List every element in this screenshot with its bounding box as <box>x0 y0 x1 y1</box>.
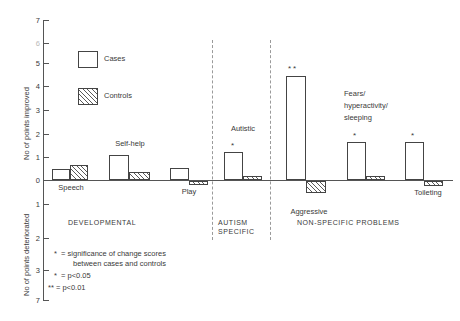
legend-label-cases: Cases <box>104 54 125 63</box>
group-label-nonspecific: NON-SPECIFIC PROBLEMS <box>297 219 400 226</box>
bar-label-play: Play <box>165 187 213 196</box>
group-separator-autism-nonspecific <box>270 40 271 240</box>
footnote-line-3: * = p<0.05 <box>54 271 91 280</box>
significance-marker-toileting: * <box>411 131 416 140</box>
bar-speech-controls <box>70 165 88 180</box>
y-tick-label-7: 7 <box>28 16 40 25</box>
y-tick-label-5: 5 <box>28 59 40 68</box>
y-tick-2 <box>44 134 49 135</box>
group-label-autism-line2: SPECIFIC <box>218 228 255 235</box>
y-tick-neg-1 <box>44 204 49 205</box>
bar-fears-controls <box>366 176 385 180</box>
y-tick-label-6: 6 <box>28 39 40 48</box>
legend-swatch-cases <box>78 51 98 68</box>
significance-marker-fears: * <box>353 131 358 140</box>
bar-toileting-controls <box>424 181 443 186</box>
y-tick-5 <box>44 63 49 64</box>
y-tick-label-neg-1: 1 <box>28 200 40 209</box>
bar-label-selfhelp: Self-help <box>100 139 160 148</box>
footnote-line-4: ** = p<0.01 <box>48 283 86 292</box>
bar-play-cases <box>170 168 189 180</box>
bar-label-fears-line2: hyperactivity/ <box>344 101 414 110</box>
bar-label-toileting: Toileting <box>400 188 456 197</box>
group-label-developmental: DEVELOPMENTAL <box>68 219 136 226</box>
group-label-autism-line1: AUTISM <box>218 219 248 226</box>
y-tick-neg-7 <box>44 300 49 301</box>
chart-figure: 7 6 5 4 3 2 1 0 1 2 3 7 No of points imp… <box>0 0 460 321</box>
bar-autistic-cases <box>224 152 243 180</box>
legend-swatch-controls <box>78 88 98 105</box>
bar-play-controls <box>189 181 208 185</box>
y-tick-1 <box>44 157 49 158</box>
y-tick-label-0: 0 <box>28 176 40 185</box>
y-tick-label-neg-7: 7 <box>28 296 40 305</box>
y-tick-3 <box>44 110 49 111</box>
y-axis-title-deteriorated: No of points deteriorated <box>22 214 31 296</box>
bar-label-aggressive: Aggressive <box>278 207 340 216</box>
y-tick-neg-2 <box>44 238 49 239</box>
bar-selfhelp-cases <box>109 155 129 180</box>
y-tick-neg-3 <box>44 270 49 271</box>
bar-autistic-controls <box>243 176 262 180</box>
bar-label-fears-line1: Fears/ <box>344 89 414 98</box>
y-tick-6 <box>44 43 49 44</box>
bar-label-fears-line3: sleeping <box>344 113 414 122</box>
group-separator-developmental-autism <box>212 40 213 240</box>
bar-aggressive-cases <box>286 76 306 180</box>
legend-label-controls: Controls <box>104 91 132 100</box>
bar-speech-cases <box>52 169 70 180</box>
bar-aggressive-controls <box>306 181 326 193</box>
bar-selfhelp-controls <box>129 172 150 180</box>
bar-toileting-cases <box>405 142 424 180</box>
bar-fears-cases <box>347 142 366 180</box>
footnote-line-2: between cases and controls <box>73 259 166 268</box>
bar-label-speech: Speech <box>48 183 94 192</box>
y-tick-7 <box>44 20 49 21</box>
significance-marker-autistic: * <box>231 141 236 150</box>
footnote-line-1: * = significance of change scores <box>54 249 166 258</box>
significance-marker-aggressive: ** <box>288 64 298 73</box>
x-axis-baseline <box>43 180 453 181</box>
y-tick-4 <box>44 86 49 87</box>
bar-label-autistic: Autistic <box>214 124 272 133</box>
y-axis-title-improved: No of points improved <box>22 87 31 160</box>
